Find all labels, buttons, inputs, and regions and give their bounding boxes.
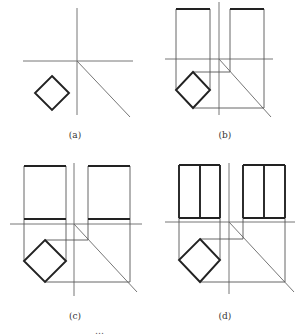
panel-c-label: (c) <box>69 311 81 321</box>
square-section-shape <box>179 239 220 282</box>
panel-a <box>23 8 133 117</box>
panel-a-label: (a) <box>69 130 81 140</box>
figure-caption: … <box>95 326 106 336</box>
diagonal-45-line <box>77 61 130 117</box>
panel-b-label: (b) <box>219 130 232 140</box>
square-section-shape <box>176 72 210 108</box>
square-section-shape <box>35 76 69 110</box>
panel-c <box>10 163 142 296</box>
panel-d <box>165 163 295 294</box>
square-section-shape <box>24 240 66 282</box>
panel-b <box>165 2 273 117</box>
panel-d-label: (d) <box>219 311 232 321</box>
diagonal-45-line <box>229 222 294 292</box>
